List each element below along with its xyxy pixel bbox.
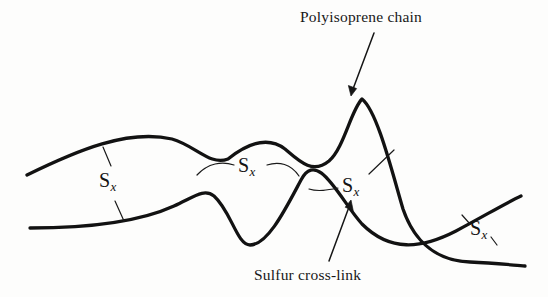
sx-3-leader-left [309, 188, 338, 191]
crosslink-symbol: S [238, 154, 249, 176]
crosslink-symbol: S [342, 174, 353, 196]
crosslink-label-1: Sx [99, 170, 116, 193]
crosslink-subscript: x [353, 184, 359, 199]
sx-4-leader-lower [491, 237, 497, 245]
sx-1-leader-lower [115, 201, 124, 221]
polyisoprene-chain-label: Polyisoprene chain [300, 8, 422, 26]
polyisoprene-callout-arrow-shaft [353, 33, 374, 89]
crosslink-subscript: x [110, 179, 116, 194]
crosslink-subscript: x [481, 227, 487, 242]
crosslink-symbol: S [470, 217, 481, 239]
crosslink-label-3: Sx [342, 175, 359, 198]
crosslink-subscript: x [249, 164, 255, 179]
polymer-crosslink-diagram: Polyisoprene chain Sulfur cross-link Sx … [0, 0, 548, 297]
crosslink-label-2: Sx [238, 155, 255, 178]
sx-4-leader-upper [462, 215, 470, 224]
diagram-canvas [0, 0, 548, 297]
sulfur-callout-arrow-shaft [329, 207, 349, 261]
crosslink-label-4: Sx [470, 218, 487, 241]
polyisoprene-callout-arrow-head [348, 86, 356, 97]
sx-1-leader-upper [103, 147, 111, 166]
sx-2-leader-left [197, 163, 234, 175]
sx-2-leader-right [267, 163, 299, 176]
sulfur-cross-link-label: Sulfur cross-link [254, 266, 361, 284]
crosslink-symbol: S [99, 169, 110, 191]
